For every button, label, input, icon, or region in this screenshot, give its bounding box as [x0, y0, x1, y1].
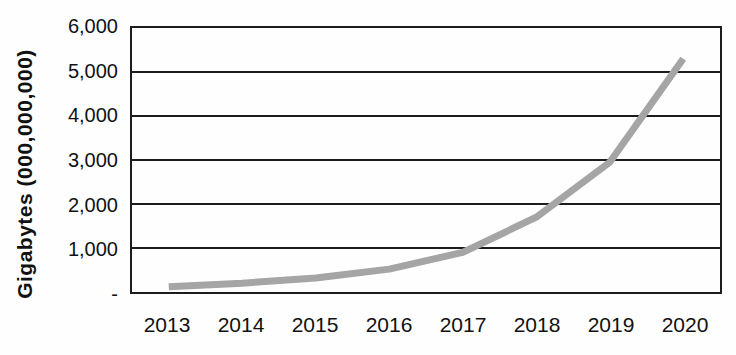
x-tick-label: 2017: [426, 312, 500, 338]
x-tick-label: 2015: [278, 312, 352, 338]
y-tick-label: 3,000: [28, 148, 118, 172]
y-tick-label: 4,000: [28, 103, 118, 127]
y-tick-label: 1,000: [28, 237, 118, 261]
y-tick-label: -: [28, 282, 118, 306]
x-tick-label: 2020: [648, 312, 722, 338]
y-tick-label: 2,000: [28, 193, 118, 217]
y-tick-label: 5,000: [28, 59, 118, 83]
plot-area: [130, 26, 722, 294]
line-chart: Gigabytes (000,000,000) -1,0002,0003,000…: [0, 0, 736, 355]
x-tick-label: 2019: [574, 312, 648, 338]
data-series-line: [169, 59, 684, 287]
x-tick-label: 2014: [204, 312, 278, 338]
data-line-svg: [132, 28, 720, 292]
x-tick-label: 2013: [130, 312, 204, 338]
x-tick-label: 2016: [352, 312, 426, 338]
x-tick-label: 2018: [500, 312, 574, 338]
y-tick-label: 6,000: [28, 14, 118, 38]
